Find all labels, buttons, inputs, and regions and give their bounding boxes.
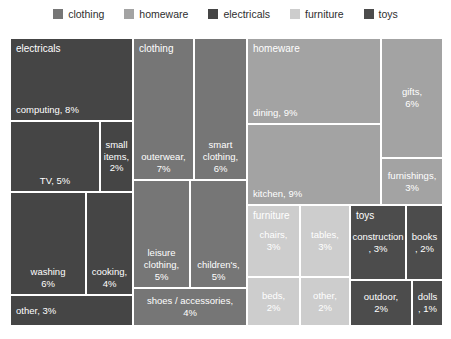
treemap-cell-construction: toysconstruction, 3% (350, 205, 406, 280)
treemap-cell-gifts: gifts,6% (381, 38, 443, 158)
toys-swatch-icon (364, 9, 374, 19)
cell-label-small-items: smallitems,2% (104, 139, 129, 175)
cell-label-chairs: chairs,3% (260, 229, 288, 253)
cell-label-dolls: dolls, 1% (418, 291, 438, 315)
legend-label: furniture (305, 8, 344, 20)
cell-label-tv: TV, 5% (40, 175, 70, 187)
treemap-cell-furnishings: furnishings,3% (381, 158, 443, 205)
cell-label-furnishings: furnishings,3% (388, 170, 437, 194)
treemap-cell-tv: TV, 5% (10, 121, 100, 192)
cell-label-dining: dining, 9% (253, 107, 297, 119)
treemap-cell-chairs: furniturechairs,3% (247, 205, 300, 277)
treemap-cell-dining: homewaredining, 9% (247, 38, 381, 124)
chart-legend: clothing homeware electricals furniture … (0, 8, 451, 20)
treemap-cell-tables: tables,3% (300, 205, 350, 277)
group-label-toys: toys (356, 210, 374, 223)
cell-label-books: books, 2% (412, 231, 437, 255)
treemap-cell-dolls: dolls, 1% (412, 280, 443, 326)
treemap-cell-beds: beds,2% (247, 277, 300, 326)
treemap-cell-outdoor: outdoor,2% (350, 280, 412, 326)
legend-label: electricals (223, 8, 270, 20)
treemap-figure: clothing homeware electricals furniture … (0, 0, 451, 339)
legend-item-electricals: electricals (208, 8, 270, 20)
treemap: electricalscomputing, 8%TV, 5%smallitems… (10, 38, 443, 326)
treemap-cell-computing: electricalscomputing, 8% (10, 38, 133, 121)
cell-label-construction: construction, 3% (352, 231, 403, 255)
group-label-clothing: clothing (139, 43, 173, 56)
group-label-homeware: homeware (253, 43, 300, 56)
electricals-swatch-icon (208, 9, 218, 19)
group-label-furniture: furniture (253, 210, 290, 223)
treemap-cell-other-electricals: other, 3% (10, 295, 133, 326)
treemap-cell-cooking: cooking,4% (86, 192, 133, 295)
legend-item-clothing: clothing (53, 8, 104, 20)
cell-label-outdoor: outdoor,2% (364, 291, 398, 315)
treemap-cell-shoes-accessories: shoes / accessories,4% (133, 288, 247, 326)
legend-item-homeware: homeware (124, 8, 188, 20)
cell-label-tables: tables,3% (311, 229, 339, 253)
legend-label: clothing (68, 8, 104, 20)
cell-label-smart-clothing: smartclothing,6% (203, 139, 238, 175)
treemap-cell-small-items: smallitems,2% (100, 121, 133, 192)
cell-label-other-furniture: other,2% (313, 290, 337, 314)
cell-label-outerwear: outerwear,7% (141, 151, 185, 175)
furniture-swatch-icon (290, 9, 300, 19)
cell-label-gifts: gifts,6% (402, 86, 422, 110)
cell-label-kitchen: kitchen, 9% (253, 188, 302, 200)
group-label-electricals: electricals (16, 43, 60, 56)
cell-label-washing: washing6% (31, 266, 66, 290)
legend-item-furniture: furniture (290, 8, 344, 20)
cell-label-cooking: cooking,4% (92, 266, 127, 290)
treemap-cell-childrens: children's,5% (190, 180, 247, 288)
cell-label-childrens: children's,5% (197, 259, 239, 283)
treemap-cell-outerwear: clothingouterwear,7% (133, 38, 194, 180)
homeware-swatch-icon (124, 9, 134, 19)
legend-label: toys (379, 8, 398, 20)
treemap-cell-kitchen: kitchen, 9% (247, 124, 381, 205)
clothing-swatch-icon (53, 9, 63, 19)
cell-label-beds: beds,2% (262, 290, 285, 314)
treemap-cell-leisure-clothing: leisureclothing,5% (133, 180, 190, 288)
treemap-cell-other-furniture: other,2% (300, 277, 350, 326)
legend-item-toys: toys (364, 8, 398, 20)
legend-label: homeware (139, 8, 188, 20)
cell-label-leisure-clothing: leisureclothing,5% (144, 247, 179, 283)
cell-label-computing: computing, 8% (16, 104, 79, 116)
cell-label-other-electricals: other, 3% (16, 305, 56, 317)
treemap-cell-books: books, 2% (406, 205, 443, 280)
treemap-cell-smart-clothing: smartclothing,6% (194, 38, 247, 180)
cell-label-shoes-accessories: shoes / accessories,4% (147, 295, 233, 319)
treemap-cell-washing: washing6% (10, 192, 86, 295)
